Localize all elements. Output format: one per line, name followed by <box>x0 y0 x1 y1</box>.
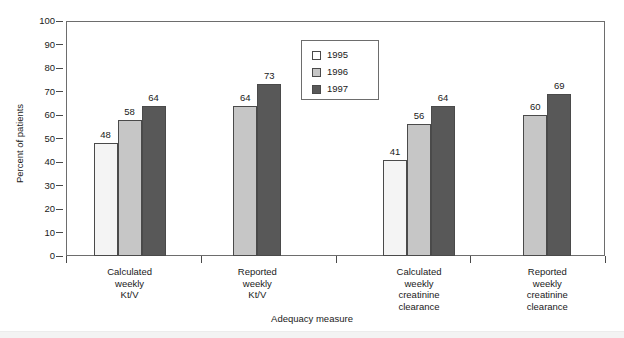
bar-1995-group1 <box>94 143 118 256</box>
x-group-label-line: Reported <box>202 266 312 278</box>
bar-1997-group1 <box>142 106 166 256</box>
legend-swatch-1995 <box>312 51 321 60</box>
x-group-label-line: Reported <box>492 266 602 278</box>
x-group-label-4: Reportedweeklycreatinineclearance <box>492 266 602 312</box>
y-tick-label: 90 <box>44 40 55 50</box>
x-tick-mark <box>470 256 471 263</box>
y-tick-label: 100 <box>39 16 55 26</box>
x-group-label-line: Kt/V <box>202 289 312 301</box>
bar-1996-group3 <box>407 124 431 256</box>
x-group-label-line: weekly <box>75 278 185 290</box>
chart-legend: 1995 1996 1997 <box>301 40 379 100</box>
bar-1995-group3 <box>383 160 407 256</box>
y-tick-mark <box>56 256 63 257</box>
bar-1997-group3 <box>431 106 455 256</box>
legend-swatch-1997 <box>312 85 321 94</box>
y-tick-label: 0 <box>50 251 55 261</box>
y-tick-label: 80 <box>44 63 55 73</box>
legend-swatch-1996 <box>312 68 321 77</box>
bar-1996-group2 <box>233 106 257 256</box>
y-tick-mark <box>56 232 63 233</box>
y-axis-title: Percent of patients <box>14 69 25 219</box>
bar-value-label: 69 <box>539 81 579 91</box>
x-group-label-line: weekly <box>364 278 474 290</box>
x-tick-mark <box>605 256 606 263</box>
y-tick-mark <box>56 115 63 116</box>
x-group-label-line: weekly <box>492 278 602 290</box>
y-tick-mark <box>56 68 63 69</box>
y-tick-mark <box>56 185 63 186</box>
legend-label-1996: 1996 <box>327 67 348 77</box>
bar-1996-group1 <box>118 120 142 256</box>
y-tick-mark <box>56 209 63 210</box>
y-tick-label: 60 <box>44 110 55 120</box>
y-tick-mark <box>56 21 63 22</box>
y-tick-label: 30 <box>44 181 55 191</box>
x-group-label-line: clearance <box>492 301 602 313</box>
x-group-label-line: clearance <box>364 301 474 313</box>
x-group-label-2: ReportedweeklyKt/V <box>202 266 312 301</box>
y-tick-label: 50 <box>44 134 55 144</box>
y-tick-mark <box>56 91 63 92</box>
y-tick-label: 70 <box>44 87 55 97</box>
x-group-label-line: creatinine <box>492 289 602 301</box>
y-tick-label: 20 <box>44 204 55 214</box>
x-group-label-1: CalculatedweeklyKt/V <box>75 266 185 301</box>
x-group-label-line: creatinine <box>364 289 474 301</box>
bar-1997-group2 <box>257 84 281 256</box>
legend-label-1995: 1995 <box>327 50 348 60</box>
bar-1996-group4 <box>523 115 547 256</box>
bar-value-label: 73 <box>249 71 289 81</box>
x-axis-title: Adequacy measure <box>0 313 624 324</box>
legend-item-1995: 1995 <box>312 47 378 63</box>
x-tick-mark <box>201 256 202 263</box>
x-tick-mark <box>336 256 337 263</box>
legend-label-1997: 1997 <box>327 84 348 94</box>
bar-value-label: 64 <box>423 93 463 103</box>
legend-item-1997: 1997 <box>312 81 378 97</box>
y-tick-mark <box>56 138 63 139</box>
x-group-label-line: Calculated <box>75 266 185 278</box>
bar-value-label: 64 <box>134 93 174 103</box>
x-group-label-3: Calculatedweeklycreatinineclearance <box>364 266 474 312</box>
x-group-label-line: Kt/V <box>75 289 185 301</box>
y-axis: 1009080706050403020100 <box>0 0 66 337</box>
scan-edge-artifact <box>0 331 624 338</box>
x-group-label-line: weekly <box>202 278 312 290</box>
x-tick-mark <box>66 256 67 263</box>
y-tick-label: 10 <box>44 228 55 238</box>
x-group-label-line: Calculated <box>364 266 474 278</box>
y-tick-label: 40 <box>44 157 55 167</box>
y-tick-mark <box>56 44 63 45</box>
bar-1997-group4 <box>547 94 571 256</box>
legend-item-1996: 1996 <box>312 64 378 80</box>
y-tick-mark <box>56 162 63 163</box>
